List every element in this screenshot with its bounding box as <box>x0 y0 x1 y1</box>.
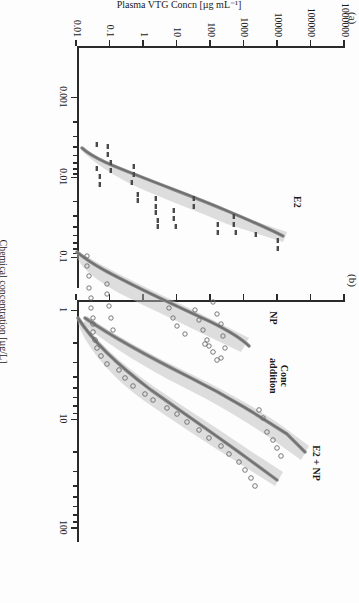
panel-a-plot-area: 1000000 100000 10000 1000 100 10 1 0.1 0… <box>77 46 345 288</box>
panel-a-fit-curve <box>82 148 283 236</box>
panel-a-curves <box>77 46 345 288</box>
y-tick-label: 0.1 <box>106 25 116 37</box>
rotated-figure-canvas: Plasma VTG Concn [µg mL⁻¹] Chemical conc… <box>0 0 359 603</box>
y-tick-label: 100 <box>206 22 216 37</box>
y-tick-label: 100000 <box>307 8 317 37</box>
panel-a: (a) 1000000 100000 10000 1000 100 <box>77 46 345 288</box>
y-tick-label: 1000 <box>240 18 250 37</box>
x-tick-label: 100 <box>58 520 68 534</box>
panel-b: (b) 1 10 100 <box>77 300 345 542</box>
scientific-figure: Plasma VTG Concn [µg mL⁻¹] Chemical conc… <box>0 0 359 603</box>
y-tick-label: 0.01 <box>72 20 82 37</box>
x-tick-label: 0.001 <box>58 86 68 107</box>
panel-b-tag: (b) <box>347 274 359 287</box>
y-tick-label: 1 <box>139 32 149 37</box>
x-tick-label: 1 <box>58 307 68 312</box>
panel-b-curves <box>77 300 345 542</box>
y-tick-label: 1000000 <box>340 3 350 37</box>
x-tick-label: 10 <box>58 414 68 424</box>
x-tick-label: 0.1 <box>58 251 68 263</box>
y-tick-label: 10000 <box>273 13 283 37</box>
x-tick-label: 0.01 <box>58 168 68 185</box>
x-axis-title: Chemical concentration [µg/L] <box>0 0 9 603</box>
y-tick-label: 10 <box>173 27 183 37</box>
y-axis-title: Plasma VTG Concn [µg mL⁻¹] <box>65 0 295 10</box>
figure-frame: Plasma VTG Concn [µg mL⁻¹] Chemical conc… <box>0 0 359 603</box>
panel-b-plot-area: 1 10 100 E2 + NP Co <box>77 300 345 542</box>
